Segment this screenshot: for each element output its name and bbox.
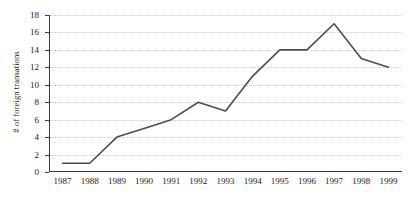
y-axis-tick-label: 4 — [35, 132, 40, 143]
y-axis-tick-label: 6 — [35, 115, 40, 126]
x-axis-tick-label: 1996 — [298, 176, 316, 187]
y-axis-title: # of foreign transations — [9, 7, 23, 177]
y-axis-tick-label: 8 — [35, 97, 40, 108]
y-axis-tick-label: 0 — [35, 167, 40, 178]
y-axis-tick-label: 12 — [30, 62, 39, 73]
y-axis-tick-label: 18 — [30, 10, 39, 21]
x-axis-tick-label: 1988 — [81, 176, 99, 187]
y-axis-tick-label: 2 — [35, 150, 40, 161]
x-axis-tick-label: 1998 — [352, 176, 370, 187]
y-axis-tick-label: 16 — [30, 27, 39, 38]
plot-area: 024681012141618 198719881989199019911992… — [49, 15, 402, 172]
line-chart-figure: # of foreign transations 024681012141618… — [0, 0, 413, 201]
x-axis-tick-label: 1989 — [108, 176, 126, 187]
x-axis-tick-label: 1990 — [135, 176, 153, 187]
x-axis-tick-label: 1995 — [271, 176, 289, 187]
y-axis-tick-label: 10 — [30, 80, 39, 91]
y-axis-tick: 0 — [45, 172, 49, 173]
y-axis-tick-label: 14 — [30, 45, 39, 56]
x-axis-tick-label: 1999 — [379, 176, 397, 187]
x-axis-tick-label: 1991 — [162, 176, 180, 187]
x-axis-tick-label: 1994 — [244, 176, 262, 187]
x-axis-tick-label: 1987 — [54, 176, 72, 187]
data-series-line — [49, 15, 402, 172]
series-polyline — [63, 24, 389, 164]
x-axis-tick-label: 1997 — [325, 176, 343, 187]
x-axis-tick-label: 1993 — [217, 176, 235, 187]
x-axis-tick-label: 1992 — [189, 176, 207, 187]
